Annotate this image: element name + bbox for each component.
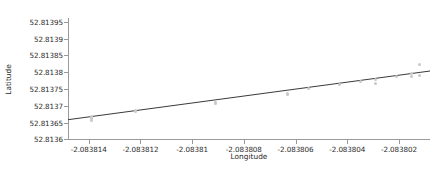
data-point (374, 82, 377, 85)
x-tick (140, 140, 141, 144)
y-tick-label: 52.8137 (34, 101, 63, 110)
plot-area: -2.083814-2.083812-2.08381-2.083808-2.08… (68, 18, 430, 140)
x-tick-label: -2.083812 (122, 145, 158, 154)
x-tick (244, 140, 245, 144)
y-tick-label: 52.8136 (34, 135, 63, 144)
x-tick-label: -2.083802 (381, 145, 417, 154)
y-tick-label: 52.81375 (30, 84, 64, 93)
data-point (395, 75, 398, 78)
figure: Latitude Longitude -2.083814-2.083812-2.… (0, 0, 446, 176)
x-tick-label: -2.083804 (329, 145, 365, 154)
y-tick-label: 52.81385 (30, 51, 64, 60)
x-tick-label: -2.08381 (176, 145, 208, 154)
x-tick-label: -2.083808 (226, 145, 262, 154)
data-point (90, 119, 93, 122)
y-axis-title: Latitude (2, 18, 14, 140)
y-axis-title-text: Latitude (4, 64, 13, 94)
y-tick-label: 52.8139 (34, 34, 63, 43)
y-tick-label: 52.8138 (34, 68, 63, 77)
x-tick-label: -2.083814 (71, 145, 107, 154)
x-tick (347, 140, 348, 144)
x-tick (296, 140, 297, 144)
data-layer (68, 18, 430, 140)
x-tick (399, 140, 400, 144)
y-tick-label: 52.81365 (30, 118, 64, 127)
y-tick-label: 52.81395 (30, 17, 64, 26)
data-point (359, 80, 362, 83)
x-tick-label: -2.083806 (278, 145, 314, 154)
x-tick (89, 140, 90, 144)
x-tick (192, 140, 193, 144)
